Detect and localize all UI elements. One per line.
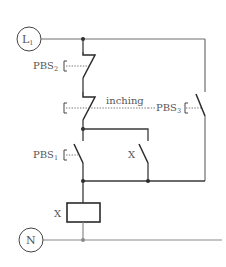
l1-terminal: L1 <box>17 27 41 51</box>
x-contact-blade <box>139 144 148 163</box>
inching-label: inching <box>106 95 144 106</box>
pbs3-nc-contact-blade <box>83 92 95 120</box>
pbs2-label: PBS2 <box>33 60 58 73</box>
x-relay-contact: X <box>128 144 148 181</box>
pbs1-contact-blade <box>74 144 83 163</box>
pbs3-nc-contact: inching <box>64 92 148 129</box>
junction-dot <box>146 179 150 183</box>
coil-box <box>67 203 100 222</box>
x-contact-label: X <box>128 149 136 160</box>
relay-coil-x: X <box>54 181 100 242</box>
n-label: N <box>26 234 36 247</box>
inching-circuit-diagram: L1 PBS2 inching PBS3 PB <box>0 0 226 267</box>
pbs1-no-contact: PBS1 <box>33 129 83 181</box>
coil-label: X <box>54 208 62 219</box>
pbs1-label: PBS1 <box>33 149 58 162</box>
pbs3-no-contact: PBS3 <box>148 94 205 181</box>
n-terminal: N <box>19 228 222 252</box>
pbs2-nc-contact: PBS2 <box>33 39 95 92</box>
pbs2-contact-blade <box>83 52 95 78</box>
pbs3-no-contact-blade <box>196 94 205 116</box>
pbs3-label: PBS3 <box>156 102 181 115</box>
x-branch-wire <box>83 129 148 141</box>
